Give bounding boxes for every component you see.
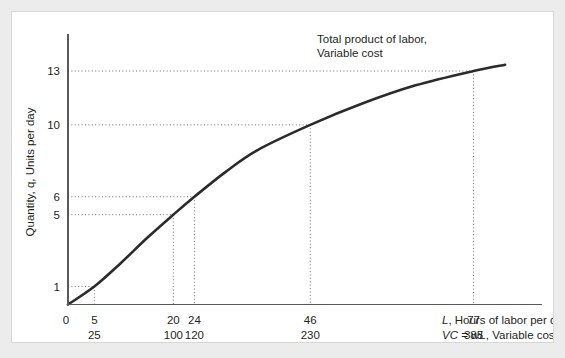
y-tick-label-10: 10	[47, 119, 60, 131]
x-tick-label-cost-120: 120	[185, 329, 204, 341]
origin-tick-label: 0	[63, 314, 69, 326]
curve-annotation-line2: Variable cost	[317, 47, 383, 59]
x-axis-title-cost-wl: wL	[471, 329, 486, 341]
y-tick-label-13: 13	[47, 65, 60, 77]
x-axis-title-cost: VC = wL, Variable cost, $	[442, 329, 554, 341]
x-tick-label-labor-24: 24	[188, 314, 201, 326]
x-axis-title-cost-vc: VC	[442, 329, 459, 341]
y-tick-labels-group: 1561013	[47, 65, 60, 293]
total-product-of-labor-chart: 1561013 520244677 25100120230385 0 Quant…	[12, 12, 554, 343]
y-tick-label-1: 1	[54, 281, 60, 293]
x-tick-label-cost-100: 100	[164, 329, 183, 341]
x-tick-labels-cost-group: 25100120230385	[88, 329, 483, 341]
chart-panel: 1561013 520244677 25100120230385 0 Quant…	[11, 11, 554, 343]
x-tick-labels-labor-group: 520244677	[91, 314, 480, 326]
x-axis-title-cost-equals: =	[458, 329, 471, 341]
curve-annotation-line1: Total product of labor,	[317, 33, 427, 45]
guide-lines-group	[68, 71, 474, 305]
x-axis-title-cost-rest: , Variable cost, $	[486, 329, 554, 341]
y-tick-label-5: 5	[54, 209, 60, 221]
x-tick-label-labor-20: 20	[167, 314, 180, 326]
y-axis-title: Quantity, q, Units per day	[24, 107, 36, 236]
x-axis-title-labor-rest: , Hours of labor per day	[448, 314, 554, 326]
x-tick-label-cost-230: 230	[301, 329, 320, 341]
x-tick-label-cost-25: 25	[88, 329, 101, 341]
x-tick-label-labor-46: 46	[304, 314, 317, 326]
x-tick-label-labor-5: 5	[91, 314, 97, 326]
x-axis-title-labor: L, Hours of labor per day	[442, 314, 554, 326]
total-product-curve	[68, 65, 505, 305]
y-tick-label-6: 6	[54, 191, 60, 203]
figure-root: 1561013 520244677 25100120230385 0 Quant…	[0, 0, 565, 358]
